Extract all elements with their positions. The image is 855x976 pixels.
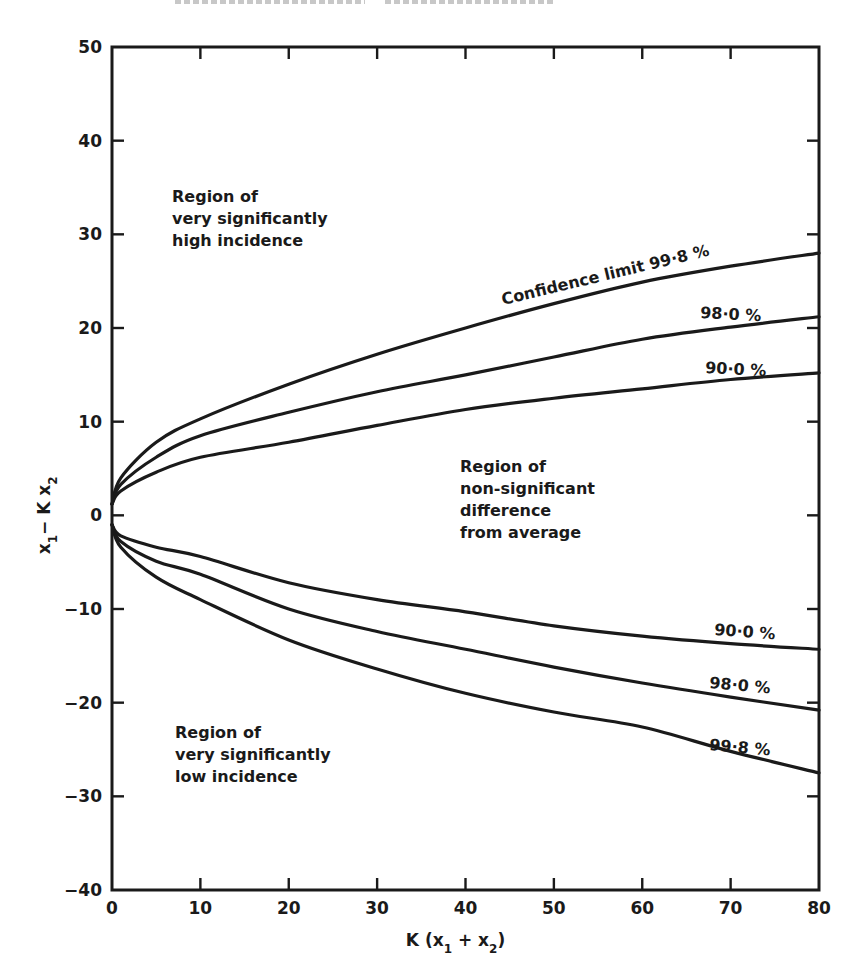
region-annotation: Region ofvery significantlyhigh incidenc… bbox=[172, 187, 328, 250]
y-tick-label: 50 bbox=[78, 37, 102, 57]
curve-label: 90·0 % bbox=[714, 620, 776, 643]
x-tick-label: 40 bbox=[454, 898, 478, 918]
curve-label: 99·8 % bbox=[709, 735, 772, 759]
curve-lower-90-0- bbox=[112, 525, 819, 650]
confidence-limit-chart: 0102030405060708050403020100−10−20−30−40… bbox=[0, 0, 855, 976]
region-annotation: Region ofnon-significantdifferencefrom a… bbox=[460, 457, 595, 542]
y-tick-label: 20 bbox=[78, 318, 102, 338]
region-annotations: Region ofvery significantlyhigh incidenc… bbox=[172, 187, 595, 786]
y-tick-label: 40 bbox=[78, 131, 102, 151]
x-tick-label: 70 bbox=[719, 898, 743, 918]
x-axis-title: K (x1 + x2) bbox=[406, 930, 505, 956]
y-tick-label: −20 bbox=[64, 693, 102, 713]
y-tick-label: 30 bbox=[78, 224, 102, 244]
x-tick-label: 60 bbox=[630, 898, 654, 918]
x-tick-label: 30 bbox=[365, 898, 389, 918]
x-tick-label: 80 bbox=[807, 898, 831, 918]
y-tick-label: 10 bbox=[78, 412, 102, 432]
x-tick-label: 10 bbox=[189, 898, 213, 918]
x-tick-label: 0 bbox=[106, 898, 118, 918]
curve-label: 98·0 % bbox=[700, 303, 762, 325]
region-annotation: Region ofvery significantlylow incidence bbox=[175, 723, 331, 786]
y-axis-title: x1− K x2 bbox=[34, 476, 60, 554]
y-tick-label: 0 bbox=[90, 505, 102, 525]
x-tick-label: 20 bbox=[277, 898, 301, 918]
y-tick-label: −30 bbox=[64, 786, 102, 806]
y-tick-label: −10 bbox=[64, 599, 102, 619]
y-tick-label: −40 bbox=[64, 880, 102, 900]
curve-label: 90·0 % bbox=[705, 358, 767, 380]
x-tick-label: 50 bbox=[542, 898, 566, 918]
